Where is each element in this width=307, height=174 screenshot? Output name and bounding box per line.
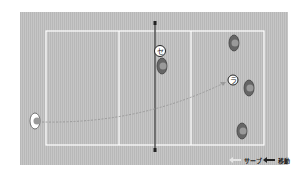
player-back-middle — [244, 80, 254, 96]
court-diagram: セ ラ — [0, 0, 307, 174]
legend: サーブ 移動 — [232, 155, 290, 165]
receiver-marker: ラ — [228, 75, 238, 85]
move-arrow-icon — [266, 159, 275, 161]
legend-serve: サーブ — [232, 156, 262, 165]
serve-arrowhead — [220, 82, 226, 86]
legend-move: 移動 — [266, 156, 290, 165]
svg-text:セ: セ — [157, 48, 164, 56]
setter-marker: セ — [155, 46, 166, 57]
player-back-bottom — [237, 123, 247, 139]
legend-serve-label: サーブ — [244, 156, 262, 165]
player-back-top — [229, 35, 239, 51]
net-post-top — [154, 21, 157, 25]
serve-path — [42, 83, 224, 122]
net-post-bottom — [154, 148, 157, 152]
player-front-center — [157, 58, 167, 74]
serve-arrow-icon — [232, 159, 241, 161]
svg-text:ラ: ラ — [230, 77, 237, 85]
player-server — [30, 113, 41, 129]
legend-move-label: 移動 — [278, 156, 290, 165]
